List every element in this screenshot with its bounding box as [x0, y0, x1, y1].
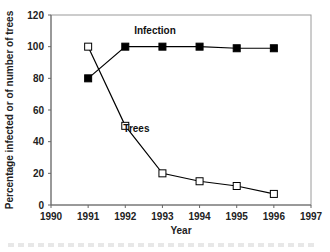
- y-tick-label: 20: [33, 168, 45, 179]
- y-tick-label: 40: [33, 136, 45, 147]
- series-infection: Infection: [85, 25, 278, 82]
- x-tick-label: 1995: [226, 211, 249, 222]
- open-square-marker: [159, 170, 166, 177]
- filled-square-marker: [270, 45, 277, 52]
- x-tick-label: 1996: [263, 211, 286, 222]
- filled-square-marker: [85, 75, 92, 82]
- x-tick-label: 1991: [77, 211, 100, 222]
- y-axis-title: Percentage infected or of number of tree…: [4, 10, 15, 209]
- filled-square-marker: [122, 43, 129, 50]
- y-tick-label: 0: [38, 200, 44, 211]
- series-group: InfectionTrees: [85, 25, 278, 197]
- series-label: Trees: [123, 123, 150, 134]
- line-chart: Percentage infected or of number of tree…: [0, 0, 330, 252]
- series-trees: Trees: [85, 43, 278, 197]
- y-tick-label: 60: [33, 105, 45, 116]
- open-square-marker: [233, 183, 240, 190]
- x-tick-label: 1994: [188, 211, 211, 222]
- y-tick-label: 120: [27, 10, 44, 21]
- x-axis-title: Year: [170, 225, 191, 236]
- open-square-marker: [196, 178, 203, 185]
- x-tick-label: 1993: [151, 211, 174, 222]
- x-tick-label: 1990: [40, 211, 63, 222]
- filled-square-marker: [196, 43, 203, 50]
- y-tick-label: 80: [33, 73, 45, 84]
- x-tick-label: 1997: [300, 211, 323, 222]
- x-ticks: 19901991199219931994199519961997: [40, 205, 323, 222]
- filled-square-marker: [159, 43, 166, 50]
- series-label: Infection: [134, 25, 176, 36]
- series-line: [88, 47, 274, 194]
- series-line: [88, 47, 274, 79]
- figure-caption-cutoff: [8, 243, 318, 247]
- x-tick-label: 1992: [114, 211, 137, 222]
- filled-square-marker: [233, 45, 240, 52]
- y-axis-title-group: Percentage infected or of number of tree…: [4, 10, 15, 209]
- y-ticks: 020406080100120: [27, 10, 51, 211]
- open-square-marker: [85, 43, 92, 50]
- y-tick-label: 100: [27, 41, 44, 52]
- open-square-marker: [270, 190, 277, 197]
